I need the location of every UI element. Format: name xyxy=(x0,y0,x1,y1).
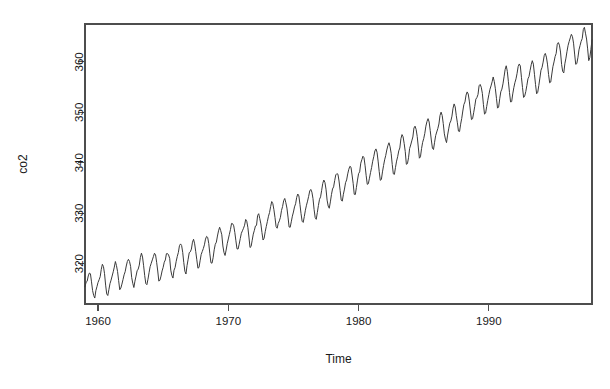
y-tick-label: 350 xyxy=(73,103,85,122)
co2-line-path xyxy=(85,27,592,298)
y-tick-label: 330 xyxy=(73,204,85,223)
plot-frame xyxy=(85,24,592,304)
co2-time-series-figure: 320330340350360 1960197019801990 co2 Tim… xyxy=(0,0,610,389)
x-tick-label: 1970 xyxy=(216,315,242,327)
y-tick-label: 320 xyxy=(73,254,85,273)
x-tick-label: 1980 xyxy=(346,315,372,327)
co2-series-line xyxy=(85,27,592,298)
plot-canvas: 320330340350360 1960197019801990 co2 Tim… xyxy=(0,0,610,389)
y-tick-label: 360 xyxy=(73,52,85,71)
x-axis-title: Time xyxy=(325,352,352,366)
y-axis: 320330340350360 xyxy=(73,52,85,273)
x-tick-label: 1960 xyxy=(85,315,111,327)
x-tick-label: 1990 xyxy=(476,315,502,327)
y-tick-label: 340 xyxy=(73,153,85,172)
y-axis-title: co2 xyxy=(16,154,30,174)
x-axis: 1960197019801990 xyxy=(85,304,501,327)
